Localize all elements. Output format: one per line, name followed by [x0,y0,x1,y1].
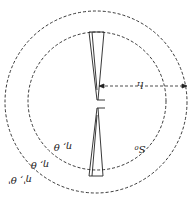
sphere-label: S₀ [135,144,146,155]
upper-cone [89,32,105,100]
biconical-antenna-diagram: l₁ S₀ η, θ η, θ η', θ' [0,0,191,207]
outer-region-label: η', θ' [8,175,32,186]
middle-region-label: η, θ [31,160,49,171]
inner-region-label: η, θ [54,142,72,153]
radius-label: l₁ [136,80,143,91]
lower-cone [89,108,105,176]
